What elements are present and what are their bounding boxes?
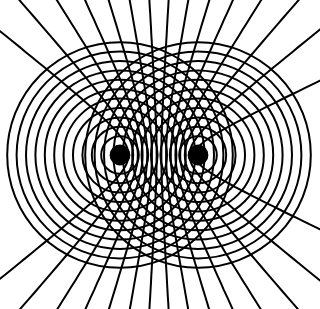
source-dot <box>110 145 130 165</box>
interference-pattern <box>0 0 320 309</box>
source-dot <box>188 145 208 165</box>
interference-diagram <box>0 0 320 309</box>
